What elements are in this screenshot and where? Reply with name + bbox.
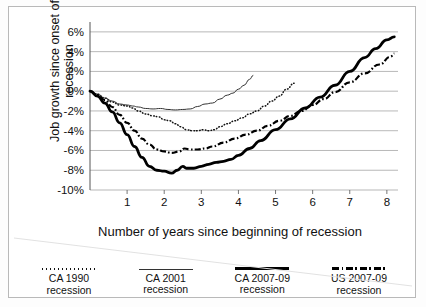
y-tick-label: -4%	[64, 125, 84, 137]
x-tick-label: 4	[235, 196, 242, 208]
data-series-group	[90, 37, 394, 173]
legend-swatch-us-2007-09	[332, 267, 386, 270]
gridlines-group	[90, 32, 398, 190]
legend-swatch-ca-2007-09	[235, 267, 289, 270]
y-tick-label: -6%	[64, 144, 84, 156]
chart-legend: CA 1990 recession CA 2001 recession CA 2…	[22, 262, 406, 302]
legend-label-line2: recession	[143, 284, 188, 296]
y-tick-label: -10%	[57, 184, 84, 196]
y-tick-label: 2%	[67, 65, 84, 77]
x-tick-label: 5	[272, 196, 278, 208]
x-tick-label: 3	[198, 196, 204, 208]
y-tick-label: -2%	[64, 105, 84, 117]
x-tick-label: 1	[124, 196, 130, 208]
series-line	[90, 75, 253, 110]
legend-item: US 2007-09 recession	[312, 262, 406, 302]
legend-item: CA 2001 recession	[119, 262, 213, 302]
x-tick-label: 8	[384, 196, 390, 208]
legend-swatch-ca-2001	[139, 269, 193, 270]
chart-svg: 6%4%2%0%-2%-4%-6%-8%-10% 12345678	[44, 14, 404, 224]
legend-label-line2: recession	[47, 285, 92, 297]
legend-swatch-ca-1990	[42, 268, 96, 270]
x-axis-label: Number of years since beginning of reces…	[60, 224, 400, 239]
x-tick-label: 7	[347, 196, 353, 208]
y-axis-label-container: Job growth since onset of recession	[22, 22, 44, 212]
y-tick-label: 4%	[67, 46, 84, 58]
x-tick-label: 6	[309, 196, 315, 208]
y-tick-labels-group: 6%4%2%0%-2%-4%-6%-8%-10%	[57, 26, 84, 196]
y-tick-label: -8%	[64, 164, 84, 176]
plot-area: 6%4%2%0%-2%-4%-6%-8%-10% 12345678	[44, 14, 404, 224]
legend-label-line1: CA 1990	[47, 273, 92, 285]
chart-page: Job growth since onset of recession 6%4%…	[0, 0, 426, 307]
x-tick-labels-group: 12345678	[124, 190, 390, 208]
legend-label-line2: recession	[235, 284, 290, 296]
legend-item: CA 1990 recession	[22, 262, 116, 302]
legend-label-line1: US 2007-09	[331, 273, 387, 285]
y-tick-label: 6%	[67, 26, 84, 38]
legend-item: CA 2007-09 recession	[215, 262, 309, 302]
series-line	[90, 37, 394, 173]
series-line	[90, 54, 394, 153]
x-tick-label: 2	[161, 196, 167, 208]
y-tick-label: 0%	[67, 85, 84, 97]
legend-label-line2: recession	[331, 285, 387, 297]
